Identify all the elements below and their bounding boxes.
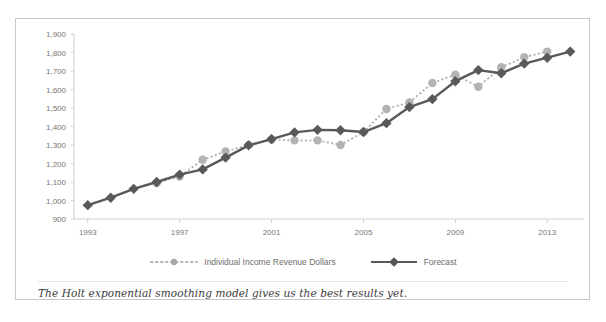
svg-text:900: 900 [53,215,67,224]
legend-label-actual: Individual Income Revenue Dollars [204,257,335,267]
svg-text:1,900: 1,900 [46,30,67,39]
svg-text:1,400: 1,400 [46,123,67,132]
svg-text:2013: 2013 [538,228,556,237]
chart-caption: The Holt exponential smoothing model giv… [38,287,568,299]
svg-text:1,800: 1,800 [46,49,67,58]
svg-text:1997: 1997 [171,228,189,237]
caption-separator [38,281,568,282]
line-chart: 1,9001,8001,7001,6001,5001,4001,3001,200… [16,19,591,249]
chart-legend: Individual Income Revenue Dollars Foreca… [16,251,591,273]
chart-plot-area: 1,9001,8001,7001,6001,5001,4001,3001,200… [16,19,591,249]
svg-text:1,300: 1,300 [46,141,67,150]
svg-text:1,600: 1,600 [46,86,67,95]
legend-swatch-dotted-circle [150,257,198,267]
svg-text:1,700: 1,700 [46,67,67,76]
legend-item-forecast: Forecast [370,257,457,267]
svg-text:1993: 1993 [79,228,97,237]
svg-text:1,000: 1,000 [46,197,67,206]
svg-text:2005: 2005 [355,228,373,237]
svg-text:1,500: 1,500 [46,104,67,113]
svg-text:2001: 2001 [263,228,281,237]
svg-text:1,200: 1,200 [46,160,67,169]
chart-screenshot: 1,9001,8001,7001,6001,5001,4001,3001,200… [0,0,606,322]
svg-text:2009: 2009 [446,228,464,237]
legend-label-forecast: Forecast [424,257,457,267]
legend-swatch-solid-diamond [370,257,418,267]
legend-item-actual: Individual Income Revenue Dollars [150,257,335,267]
chart-card: 1,9001,8001,7001,6001,5001,4001,3001,200… [15,18,590,300]
svg-text:1,100: 1,100 [46,178,67,187]
